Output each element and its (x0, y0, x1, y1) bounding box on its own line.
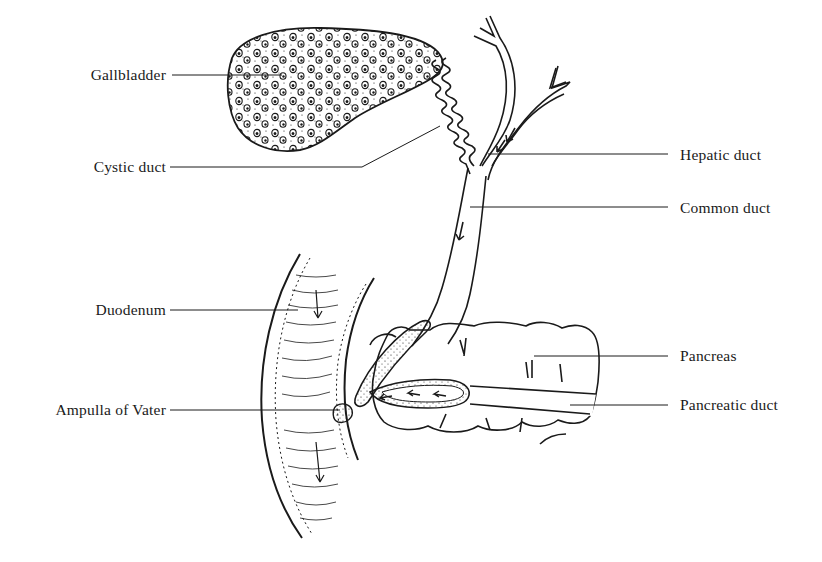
label-common-duct: Common duct (680, 200, 770, 216)
illustration (0, 0, 822, 562)
gallbladder-shape (228, 28, 443, 151)
label-pancreatic-duct: Pancreatic duct (680, 397, 778, 413)
hepatic-duct-shape (474, 16, 570, 180)
label-pancreas: Pancreas (680, 348, 737, 364)
label-ampulla-of-vater: Ampulla of Vater (0, 402, 166, 418)
label-hepatic-duct: Hepatic duct (680, 147, 761, 163)
label-cystic-duct: Cystic duct (60, 159, 166, 175)
cystic-duct-shape (432, 58, 475, 174)
pancreatic-duct-shape (370, 380, 596, 417)
anatomy-diagram: Gallbladder Cystic duct Hepatic duct Com… (0, 0, 822, 562)
label-gallbladder: Gallbladder (72, 67, 166, 83)
common-duct-shape (412, 168, 486, 346)
label-duodenum: Duodenum (60, 302, 166, 318)
